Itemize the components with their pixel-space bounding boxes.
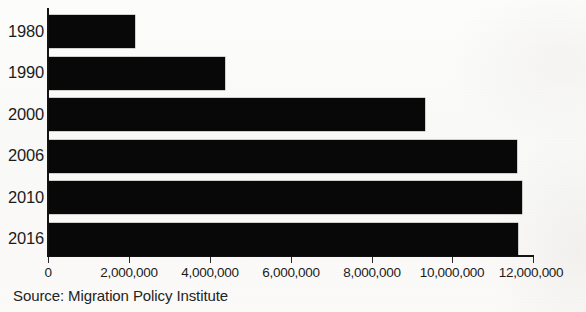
y-tick-label-2016: 2016 <box>0 229 44 248</box>
x-tick-label-2000000: 2,000,000 <box>100 265 157 280</box>
x-tick-label-6000000: 6,000,000 <box>262 265 319 280</box>
x-axis-tick <box>48 257 49 263</box>
chart-plot-area: 1980 1990 2000 2006 2010 2016 0 2,000,00… <box>0 0 586 312</box>
x-tick-label-10000000: 10,000,000 <box>420 265 485 280</box>
bar-2016 <box>49 223 518 256</box>
x-tick-label-0: 0 <box>44 265 51 280</box>
x-tick-label-8000000: 8,000,000 <box>343 265 400 280</box>
y-tick-label-1990: 1990 <box>0 63 44 82</box>
y-tick-label-1980: 1980 <box>0 22 44 41</box>
y-tick-label-wrap: 2010 <box>0 188 44 208</box>
bar-2010 <box>49 181 522 214</box>
y-tick-label-2010: 2010 <box>0 188 44 207</box>
y-tick-label-wrap: 2016 <box>0 229 44 249</box>
x-axis-tick <box>291 257 292 263</box>
y-tick-label-2000: 2000 <box>0 105 44 124</box>
x-tick-label-12000000: 12,000,000 <box>499 265 564 280</box>
x-axis-tick <box>533 257 534 263</box>
y-tick-label-wrap: 1990 <box>0 63 44 83</box>
y-tick-label-wrap: 2006 <box>0 146 44 166</box>
x-axis-tick <box>210 257 211 263</box>
source-note: Source: Migration Policy Institute <box>13 287 228 304</box>
x-axis-tick <box>129 257 130 263</box>
bar-2006 <box>49 140 517 173</box>
bar-1990 <box>49 57 225 90</box>
x-tick-label-4000000: 4,000,000 <box>181 265 238 280</box>
x-axis-tick <box>372 257 373 263</box>
y-tick-label-2006: 2006 <box>0 146 44 165</box>
y-tick-label-wrap: 2000 <box>0 105 44 125</box>
y-tick-label-wrap: 1980 <box>0 22 44 42</box>
chart-figure: 1980 1990 2000 2006 2010 2016 0 2,000,00… <box>0 0 586 312</box>
bar-1980 <box>49 15 135 48</box>
bar-2000 <box>49 98 425 131</box>
x-axis-tick <box>452 257 453 263</box>
